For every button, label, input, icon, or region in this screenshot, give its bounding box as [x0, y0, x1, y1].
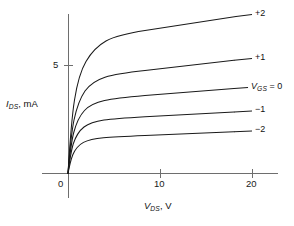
curve-label-vgs-value: = 0	[267, 81, 282, 91]
leader-minus2	[234, 131, 252, 132]
leader-plus1	[234, 59, 252, 61]
curve-label-plus2: +2	[255, 9, 265, 18]
label-leaders	[234, 14, 252, 131]
curve-vgs-zero	[68, 89, 234, 174]
curve-vgs-minus1	[68, 112, 234, 174]
x-tick-label-0: 0	[58, 179, 63, 189]
fet-drain-characteristics-figure: 0 10 20 5 IDS, mA VDS, V +2 +1 VGS = 0 −…	[0, 0, 294, 226]
y-tick-label-5: 5	[53, 60, 58, 70]
curve-label-minus1: −1	[255, 105, 265, 114]
curve-vgs-minus2	[68, 132, 234, 174]
x-axis-title-unit: , V	[160, 200, 172, 211]
y-axis-title-subscript: DS	[9, 103, 19, 110]
x-axis-title-subscript: DS	[150, 205, 160, 212]
curve-label-plus1: +1	[255, 53, 265, 62]
y-axis-title-unit: , mA	[18, 98, 38, 109]
curve-family	[68, 17, 236, 174]
curve-label-minus2: −2	[255, 125, 265, 134]
x-tick-label-10: 10	[154, 179, 165, 189]
leader-plus2	[236, 14, 252, 16]
x-tick-label-20: 20	[246, 179, 257, 189]
leader-zero	[234, 87, 248, 88]
curve-label-vgs-zero: VGS = 0	[251, 82, 282, 91]
curve-label-vgs-subscript: GS	[257, 85, 267, 92]
y-axis-title: IDS, mA	[6, 99, 38, 109]
plot-canvas	[0, 0, 294, 226]
x-axis-title: VDS, V	[144, 201, 172, 211]
leader-minus1	[234, 111, 252, 112]
